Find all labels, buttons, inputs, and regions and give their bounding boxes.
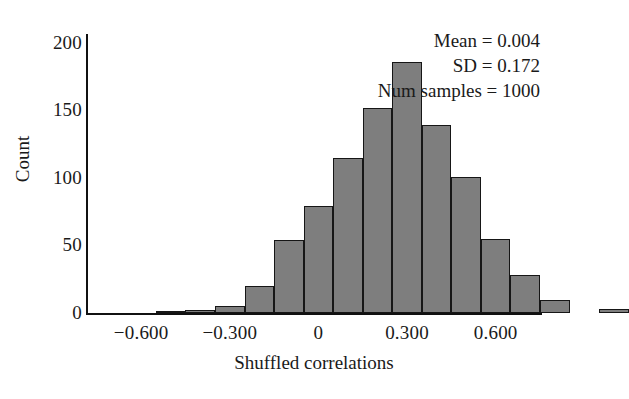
y-axis-title: Count	[12, 89, 34, 229]
y-axis-tick-label: 100	[26, 168, 82, 187]
x-axis-line	[86, 313, 542, 315]
annotation-mean: Mean = 0.004	[378, 28, 540, 53]
y-axis-tick-label: 150	[26, 100, 82, 119]
statistics-annotation: Mean = 0.004 SD = 0.172 Num samples = 10…	[378, 28, 540, 103]
histogram-bar	[510, 275, 540, 313]
x-axis-title: Shuffled correlations	[88, 352, 540, 374]
histogram-bar	[333, 158, 363, 313]
histogram-bar	[540, 300, 570, 314]
histogram-bar	[304, 206, 334, 313]
annotation-sd: SD = 0.172	[378, 53, 540, 78]
annotation-num-samples: Num samples = 1000	[378, 78, 540, 103]
histogram-bar	[451, 177, 481, 313]
histogram-bar	[363, 108, 393, 313]
histogram-bar	[274, 240, 304, 313]
histogram-bar	[245, 286, 275, 313]
y-axis-tick-label: 50	[26, 235, 82, 254]
y-axis-tick-label: 0	[26, 303, 82, 322]
histogram-bar	[185, 310, 215, 313]
histogram-bar	[215, 306, 245, 313]
histogram-bar	[481, 239, 511, 313]
y-axis-tick-label: 200	[26, 33, 82, 52]
histogram-bar	[599, 309, 629, 313]
histogram-bar	[422, 125, 452, 313]
x-axis-tick-label: 0.600	[436, 322, 556, 344]
histogram-bar	[156, 311, 186, 313]
